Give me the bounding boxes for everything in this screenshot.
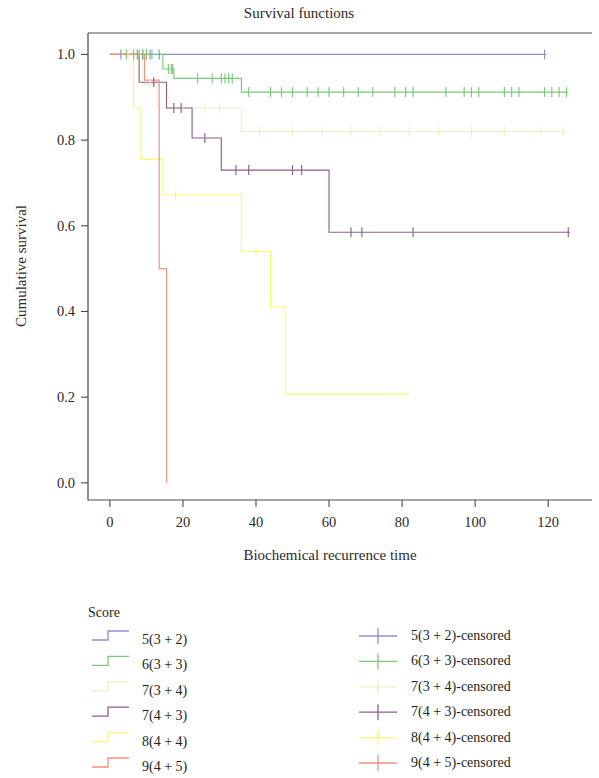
legend-label: 7(3 + 4)-censored — [411, 679, 511, 695]
legend-item-curve[interactable]: 7(3 + 4) — [92, 682, 188, 699]
legend-item-censored[interactable]: 7(4 + 3)-censored — [359, 704, 511, 720]
y-tick-label: 0.4 — [57, 303, 76, 319]
x-tick-label: 80 — [395, 514, 410, 530]
legend-heading: Score — [88, 605, 120, 620]
survival-curve — [110, 54, 570, 232]
x-tick-label: 20 — [176, 514, 191, 530]
legend-swatch — [92, 758, 129, 767]
legend: Score5(3 + 2)6(3 + 3)7(3 + 4)7(4 + 3)8(4… — [88, 605, 511, 775]
legend-label: 8(4 + 4)-censored — [411, 730, 511, 746]
legend-label: 9(4 + 5) — [142, 759, 188, 775]
legend-item-curve[interactable]: 6(3 + 3) — [92, 656, 188, 673]
y-tick-label: 1.0 — [57, 46, 75, 62]
legend-item-curve[interactable]: 8(4 + 4) — [92, 733, 188, 750]
y-tick-label: 0.8 — [57, 132, 75, 148]
legend-swatch — [92, 682, 129, 691]
x-tick-label: 40 — [249, 514, 264, 530]
y-axis-ticks: 0.00.20.40.60.81.0 — [57, 46, 88, 490]
legend-item-curve[interactable]: 5(3 + 2) — [92, 631, 188, 648]
x-tick-label: 120 — [537, 514, 559, 530]
legend-label: 6(3 + 3)-censored — [411, 653, 511, 669]
survival-curves — [110, 54, 570, 482]
chart-title: Survival functions — [244, 5, 355, 21]
y-tick-label: 0.0 — [57, 475, 75, 491]
survival-curve — [110, 54, 568, 92]
survival-curve — [110, 54, 167, 482]
legend-item-censored[interactable]: 7(3 + 4)-censored — [359, 679, 511, 695]
legend-swatch — [92, 707, 129, 716]
legend-swatch — [92, 733, 129, 742]
y-tick-label: 0.6 — [57, 218, 75, 234]
plot-frame — [88, 33, 592, 500]
x-axis-title: Biochemical recurrence time — [243, 547, 417, 563]
x-axis-ticks: 020406080100120 — [106, 500, 559, 530]
legend-swatch — [92, 631, 129, 640]
y-tick-label: 0.2 — [57, 389, 75, 405]
legend-item-censored[interactable]: 8(4 + 4)-censored — [359, 730, 511, 746]
legend-label: 7(4 + 3) — [142, 708, 188, 724]
legend-item-censored[interactable]: 5(3 + 2)-censored — [359, 628, 511, 644]
survival-curve — [110, 54, 567, 131]
legend-label: 5(3 + 2) — [142, 632, 188, 648]
x-tick-label: 60 — [322, 514, 337, 530]
x-tick-label: 100 — [464, 514, 486, 530]
censored-marks — [121, 49, 568, 256]
legend-label: 5(3 + 2)-censored — [411, 628, 511, 644]
legend-label: 7(4 + 3)-censored — [411, 704, 511, 720]
legend-label: 8(4 + 4) — [142, 734, 188, 750]
y-axis-title: Cumulative survival — [13, 205, 29, 327]
legend-label: 7(3 + 4) — [142, 683, 188, 699]
legend-item-curve[interactable]: 9(4 + 5) — [92, 758, 188, 775]
legend-label: 6(3 + 3) — [142, 657, 188, 673]
legend-item-curve[interactable]: 7(4 + 3) — [92, 707, 188, 724]
legend-label: 9(4 + 5)-censored — [411, 755, 511, 771]
x-tick-label: 0 — [106, 514, 113, 530]
survival-curve — [110, 54, 409, 394]
survival-functions-figure: Survival functions Cumulative survival B… — [0, 0, 599, 778]
legend-item-censored[interactable]: 9(4 + 5)-censored — [359, 755, 511, 771]
legend-swatch — [92, 656, 129, 665]
chart-canvas: Survival functions Cumulative survival B… — [0, 0, 599, 778]
legend-item-censored[interactable]: 6(3 + 3)-censored — [359, 653, 511, 669]
